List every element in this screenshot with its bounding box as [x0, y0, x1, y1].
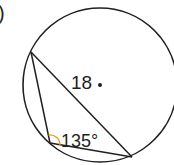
center-point: [98, 83, 102, 87]
inscribed-quadrilateral-diagram: ) 18 135°: [0, 0, 174, 165]
angle-label: 135°: [61, 131, 98, 151]
left-chord: [31, 52, 50, 143]
center-label: 18: [71, 72, 92, 93]
problem-label-fragment: ): [0, 2, 5, 24]
